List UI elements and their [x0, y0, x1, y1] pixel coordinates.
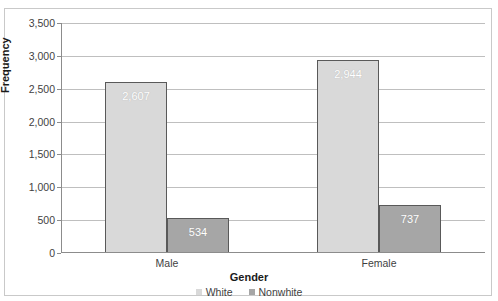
chart-legend: WhiteNonwhite: [5, 286, 493, 298]
y-axis-tick: [57, 253, 61, 254]
legend-swatch-icon: [249, 289, 255, 295]
legend-label: Nonwhite: [259, 286, 303, 298]
y-axis-tick-label: 3,500: [29, 17, 55, 29]
y-axis-tick-label: 1,500: [29, 148, 55, 160]
y-axis-tick-label: 2,000: [29, 116, 55, 128]
legend-item-white[interactable]: White: [196, 286, 233, 298]
y-axis-tick-label: 500: [37, 214, 55, 226]
legend-swatch-icon: [196, 289, 202, 295]
legend-item-nonwhite[interactable]: Nonwhite: [249, 286, 303, 298]
x-axis-category-label-male: Male: [105, 257, 229, 269]
plot-area: 2,6075342,944737: [61, 23, 485, 253]
x-axis-category-label-female: Female: [317, 257, 441, 269]
legend-label: White: [206, 286, 233, 298]
y-axis-tick-label: 1,000: [29, 181, 55, 193]
clipped-header-strip: [0, 0, 498, 8]
y-axis-tick-labels: 05001,0001,5002,0002,5003,0003,500: [5, 23, 55, 253]
chart-container: Frequency 05001,0001,5002,0002,5003,0003…: [4, 8, 492, 296]
plot-axes: [61, 23, 485, 253]
y-axis-tick-label: 3,000: [29, 50, 55, 62]
y-axis-tick-label: 0: [49, 247, 55, 259]
y-axis-tick-label: 2,500: [29, 83, 55, 95]
x-axis-title: Gender: [5, 271, 493, 283]
